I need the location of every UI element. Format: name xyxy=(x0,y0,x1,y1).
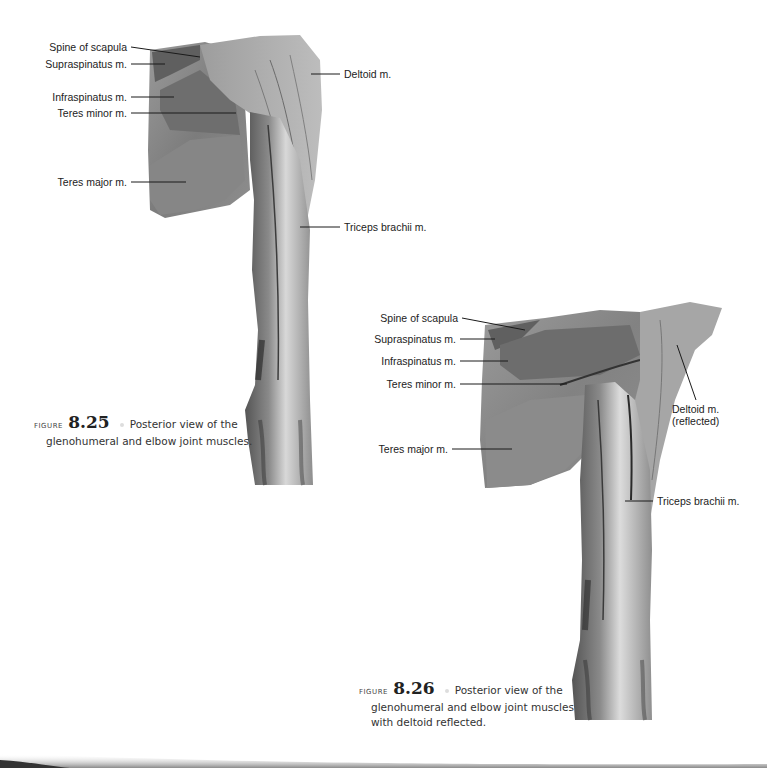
figure-word: FIGURE xyxy=(34,422,63,430)
label-triceps-2: Triceps brachii m. xyxy=(657,495,739,507)
label-deltoid-reflected-line2: (reflected) xyxy=(672,415,719,427)
label-infraspinatus-2: Infraspinatus m. xyxy=(381,355,456,367)
label-deltoid-reflected-line1: Deltoid m. xyxy=(672,403,719,415)
figure-number: 8.25 xyxy=(68,412,109,432)
figure-8-25-caption: FIGURE 8.25Posterior view of the glenohu… xyxy=(34,415,252,449)
figure-number: 8.26 xyxy=(393,678,434,698)
label-spine-of-scapula: Spine of scapula xyxy=(49,41,127,53)
caption-line-1: Posterior view of the xyxy=(130,418,238,430)
caption-line-2: glenohumeral and elbow joint muscles xyxy=(359,700,574,715)
caption-line-1: Posterior view of the xyxy=(455,684,563,696)
label-spine-of-scapula-2: Spine of scapula xyxy=(380,312,458,324)
figure-8-26-caption: FIGURE 8.26Posterior view of the glenohu… xyxy=(359,681,574,730)
label-supraspinatus: Supraspinatus m. xyxy=(45,58,127,70)
label-teres-major: Teres major m. xyxy=(58,176,127,188)
caption-line-2: glenohumeral and elbow joint muscles. xyxy=(34,434,252,449)
label-teres-major-2: Teres major m. xyxy=(379,443,448,455)
label-deltoid: Deltoid m. xyxy=(344,68,391,80)
page-curl-shadow xyxy=(0,740,767,768)
label-triceps: Triceps brachii m. xyxy=(344,221,426,233)
label-infraspinatus: Infraspinatus m. xyxy=(52,91,127,103)
textbook-page: Spine of scapula Supraspinatus m. Infras… xyxy=(0,0,767,768)
figure-word: FIGURE xyxy=(359,688,388,696)
caption-separator xyxy=(445,689,449,693)
label-teres-minor: Teres minor m. xyxy=(58,107,127,119)
label-teres-minor-2: Teres minor m. xyxy=(387,378,456,390)
label-supraspinatus-2: Supraspinatus m. xyxy=(374,333,456,345)
arm-region-2 xyxy=(572,382,652,720)
caption-line-3: with deltoid reflected. xyxy=(359,715,574,730)
caption-separator xyxy=(120,423,124,427)
label-deltoid-reflected: Deltoid m. (reflected) xyxy=(672,403,719,427)
